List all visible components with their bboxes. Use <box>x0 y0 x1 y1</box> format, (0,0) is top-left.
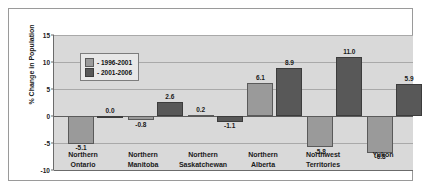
chart-frame: % Change in Population 151050-5-10 -5.10… <box>8 8 413 181</box>
legend-item-series1: - 1996-2001 <box>85 57 132 67</box>
legend-swatch-icon-series2 <box>85 68 94 77</box>
bar[interactable] <box>128 116 154 120</box>
x-axis-category-label: Yukon <box>353 149 413 177</box>
x-axis-category-line: Yukon <box>353 150 413 160</box>
y-tick-label-0: 0 <box>46 113 50 120</box>
x-axis-category-label: NorthwestTerritories <box>293 149 353 177</box>
x-axis-categories: NorthernOntarioNorthernManitobaNorthernS… <box>53 149 413 177</box>
bar-value-label: 6.1 <box>247 74 273 81</box>
x-axis-category-line: Northern <box>173 150 233 160</box>
bar[interactable] <box>396 84 422 116</box>
bar[interactable] <box>188 115 214 117</box>
bar[interactable] <box>307 116 333 147</box>
y-tick-label--10: -10 <box>41 167 50 174</box>
x-axis-category-line: Alberta <box>233 160 293 170</box>
y-axis-title: % Change in Population <box>28 10 35 120</box>
x-axis-category-line: Northwest <box>293 150 353 160</box>
legend-swatch-icon-series1 <box>85 58 94 67</box>
x-axis-category-line: Manitoba <box>113 160 173 170</box>
y-tick-label-5: 5 <box>46 86 50 93</box>
y-tick-label-15: 15 <box>43 32 50 39</box>
x-axis-category-line: Northern <box>113 150 173 160</box>
legend-label-series2: - 2001-2006 <box>97 69 132 76</box>
x-axis-category-line: Ontario <box>53 160 113 170</box>
chart-legend: - 1996-2001 - 2001-2006 <box>80 53 139 81</box>
x-axis-category-label: NorthernSaskatchewan <box>173 149 233 177</box>
y-tick-label--5: -5 <box>44 140 50 147</box>
bar[interactable] <box>247 83 273 116</box>
bar[interactable] <box>68 116 94 144</box>
bar-value-label: -0.8 <box>128 121 154 128</box>
bar-value-label: 0.2 <box>188 106 214 113</box>
x-axis-category-label: NorthernAlberta <box>233 149 293 177</box>
x-axis-category-line: Saskatchewan <box>173 160 233 170</box>
legend-label-series1: - 1996-2001 <box>97 59 132 66</box>
legend-item-series2: - 2001-2006 <box>85 67 132 77</box>
x-axis-category-line: Territories <box>293 160 353 170</box>
x-axis-category-line: Northern <box>53 150 113 160</box>
x-axis-category-line: Northern <box>233 150 293 160</box>
y-tick-label-10: 10 <box>43 59 50 66</box>
x-axis-category-label: NorthernOntario <box>53 149 113 177</box>
x-axis-category-label: NorthernManitoba <box>113 149 173 177</box>
bar-value-label: 5.9 <box>396 75 422 82</box>
bar[interactable] <box>367 116 393 153</box>
